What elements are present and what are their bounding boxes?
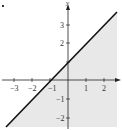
x-tick-label: 1 [84,84,88,93]
inequality-graph: −3 −2 −1 1 2 3 2 −1 −2 y [0,0,122,130]
x-tick-label: −1 [48,84,57,93]
x-axis-arrow-icon [115,78,121,82]
x-tick-label: −3 [10,84,19,93]
x-tick-label: 2 [102,84,106,93]
y-tick-label: −2 [56,114,65,123]
y-tick-label: 3 [60,21,64,30]
y-tick-label: 2 [60,39,64,48]
y-tick-label: −1 [56,95,65,104]
y-axis-label: y [65,0,70,7]
x-tick-label: −2 [28,84,37,93]
bullet-marker-icon [2,5,4,7]
